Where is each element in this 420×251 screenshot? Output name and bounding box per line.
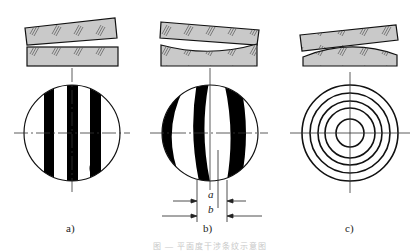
panel-c: c) bbox=[290, 25, 410, 235]
glass-plates-a bbox=[25, 18, 118, 66]
glass-plates-c bbox=[300, 25, 398, 66]
panel-b: a b b) bbox=[150, 22, 268, 235]
fringe-view-a bbox=[14, 68, 130, 193]
dimension-b-label: b bbox=[208, 203, 214, 215]
panel-a: a) bbox=[14, 18, 130, 235]
fringe-view-b bbox=[150, 68, 268, 190]
interference-fringes-figure: a) bbox=[0, 0, 420, 251]
glass-plates-b bbox=[160, 22, 259, 66]
dimension-a-label: a bbox=[208, 188, 214, 200]
figure-caption: 图 — 平面度干涉条纹示意图 bbox=[0, 240, 420, 251]
panel-label-a: a) bbox=[66, 222, 75, 235]
panel-label-b: b) bbox=[203, 222, 213, 235]
panel-label-c: c) bbox=[345, 222, 354, 235]
